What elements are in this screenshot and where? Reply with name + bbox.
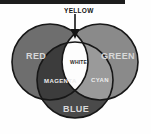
label-white: WHITE [70, 59, 87, 65]
label-green: GREEN [101, 51, 135, 61]
label-cyan: CYAN [91, 77, 109, 83]
color-venn-diagram-figure: YELLOW RED GREEN BLUE MAGENTA CYAN WHITE [0, 0, 151, 134]
label-blue: BLUE [63, 104, 89, 114]
label-yellow-callout: YELLOW [64, 7, 94, 14]
label-red: RED [26, 51, 46, 61]
label-magenta: MAGENTA [44, 78, 77, 84]
